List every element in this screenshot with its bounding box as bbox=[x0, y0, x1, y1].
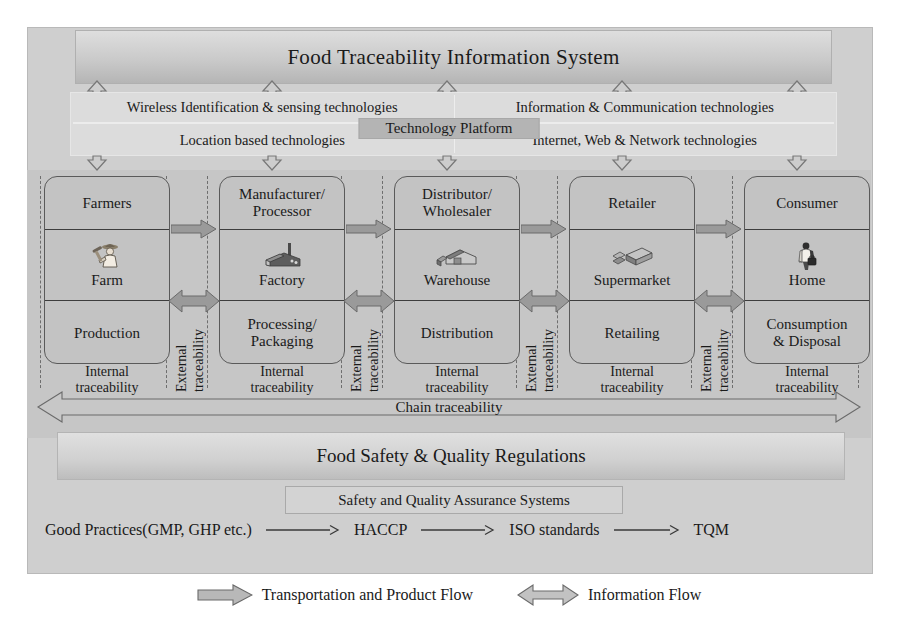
place-cell-warehouse: Warehouse bbox=[395, 229, 519, 301]
external-traceability-2: External traceability bbox=[349, 300, 367, 392]
separator-dashed-9 bbox=[732, 176, 733, 388]
technology-platform-label: Technology Platform bbox=[359, 118, 540, 139]
separator-dashed-1 bbox=[40, 176, 41, 388]
title-text: Food Traceability Information System bbox=[287, 45, 619, 70]
farmer-icon bbox=[90, 241, 124, 271]
downlink-arrow-3 bbox=[436, 155, 458, 171]
assurance-box: Safety and Quality Assurance Systems bbox=[285, 486, 623, 514]
regulations-banner: Food Safety & Quality Regulations bbox=[57, 432, 845, 480]
product-flow-arrow-3 bbox=[521, 219, 565, 239]
assurance-box-label: Safety and Quality Assurance Systems bbox=[338, 492, 570, 509]
place-cell-farm: Farm bbox=[45, 229, 169, 301]
external-traceability-1: External traceability bbox=[174, 300, 192, 392]
chain-column-retailer[interactable]: Retailer Supermarket Retailing bbox=[569, 176, 695, 364]
downlink-arrow-2 bbox=[261, 155, 283, 171]
place-cell-supermarket: Supermarket bbox=[570, 229, 694, 301]
downlink-arrow-4 bbox=[611, 155, 633, 171]
tech-cell-ict: Information & Communication technologies bbox=[454, 94, 837, 120]
actor-label-retailer: Retailer bbox=[570, 177, 694, 229]
chain-column-distributor[interactable]: Distributor/Wholesaler Warehouse Distrib… bbox=[394, 176, 520, 364]
chain-column-consumer[interactable]: Consumer Home Consumption& Disposal bbox=[744, 176, 870, 364]
actor-label-consumer: Consumer bbox=[745, 177, 869, 229]
actor-label-distributor: Distributor/Wholesaler bbox=[395, 177, 519, 229]
legend-information-arrow-icon bbox=[517, 583, 579, 607]
separator-dashed-7 bbox=[557, 176, 558, 388]
stage-label-distribution: Distribution bbox=[395, 301, 519, 365]
stage-label-retailing: Retailing bbox=[570, 301, 694, 365]
assurance-step-iso: ISO standards bbox=[509, 521, 599, 539]
legend-information: Information Flow bbox=[517, 583, 701, 607]
place-label-factory: Factory bbox=[259, 272, 305, 289]
external-traceability-word-a-2: External bbox=[349, 300, 365, 392]
external-traceability-3: External traceability bbox=[524, 300, 542, 392]
home-icon bbox=[791, 241, 823, 271]
downlink-arrow-5 bbox=[786, 155, 808, 171]
downlink-arrow-1 bbox=[86, 155, 108, 171]
assurance-step-haccp: HACCP bbox=[354, 521, 407, 539]
external-traceability-word-b-4: traceability bbox=[716, 300, 732, 392]
legend-transport-arrow-icon bbox=[197, 584, 253, 606]
assurance-arrow-3 bbox=[614, 524, 680, 536]
external-traceability-word-b-2: traceability bbox=[366, 300, 382, 392]
external-traceability-word-a-4: External bbox=[699, 300, 715, 392]
assurance-arrow-1 bbox=[266, 524, 340, 536]
stage-label-consumption: Consumption& Disposal bbox=[745, 301, 869, 365]
supermarket-icon bbox=[608, 241, 656, 271]
product-flow-arrow-4 bbox=[696, 219, 740, 239]
assurance-progression: Good Practices(GMP, GHP etc.) HACCP ISO … bbox=[27, 516, 871, 544]
actor-label-farmers: Farmers bbox=[45, 177, 169, 229]
tech-cell-wireless: Wireless Identification & sensing techno… bbox=[71, 94, 454, 120]
legend-information-label: Information Flow bbox=[588, 586, 701, 604]
assurance-strip: Safety and Quality Assurance Systems Goo… bbox=[27, 486, 871, 548]
assurance-step-tqm: TQM bbox=[694, 521, 730, 539]
stage-label-production: Production bbox=[45, 301, 169, 365]
tech-row-top: Wireless Identification & sensing techno… bbox=[71, 94, 836, 120]
external-traceability-word-b-3: traceability bbox=[541, 300, 557, 392]
legend: Transportation and Product Flow Informat… bbox=[0, 575, 898, 615]
actor-label-manufacturer: Manufacturer/Processor bbox=[220, 177, 344, 229]
external-traceability-word-a-3: External bbox=[524, 300, 540, 392]
assurance-arrow-2 bbox=[421, 524, 495, 536]
separator-dashed-5 bbox=[382, 176, 383, 388]
warehouse-icon bbox=[434, 241, 480, 271]
place-cell-factory: Factory bbox=[220, 229, 344, 301]
chain-column-farmers[interactable]: Farmers Farm Production bbox=[44, 176, 170, 364]
separator-dashed-3 bbox=[207, 176, 208, 388]
external-traceability-word-a-1: External bbox=[174, 300, 190, 392]
regulations-text: Food Safety & Quality Regulations bbox=[316, 445, 585, 467]
diagram-root: Food Traceability Information System Wir… bbox=[0, 0, 898, 625]
external-traceability-4: External traceability bbox=[699, 300, 717, 392]
factory-icon bbox=[260, 241, 304, 271]
legend-transportation: Transportation and Product Flow bbox=[197, 584, 473, 606]
assurance-step-good-practices: Good Practices(GMP, GHP etc.) bbox=[45, 521, 252, 539]
legend-transport-label: Transportation and Product Flow bbox=[262, 586, 473, 604]
place-cell-home: Home bbox=[745, 229, 869, 301]
title-banner: Food Traceability Information System bbox=[75, 30, 832, 84]
place-label-home: Home bbox=[789, 272, 826, 289]
product-flow-arrow-1 bbox=[171, 219, 215, 239]
stage-label-processing: Processing/Packaging bbox=[220, 301, 344, 365]
chain-column-manufacturer[interactable]: Manufacturer/Processor Factory Processin… bbox=[219, 176, 345, 364]
chain-traceability-label-wrap: Chain traceability bbox=[36, 390, 862, 424]
external-traceability-word-b-1: traceability bbox=[191, 300, 207, 392]
product-flow-arrow-2 bbox=[346, 219, 390, 239]
place-label-supermarket: Supermarket bbox=[594, 272, 671, 289]
chain-traceability-label: Chain traceability bbox=[395, 399, 502, 416]
place-label-farm: Farm bbox=[91, 272, 123, 289]
place-label-warehouse: Warehouse bbox=[424, 272, 490, 289]
